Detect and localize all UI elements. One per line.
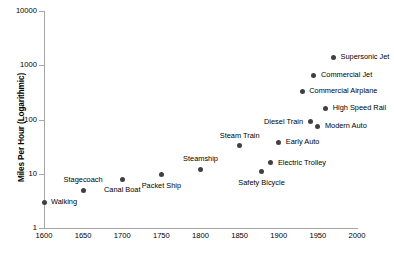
y-tick-label-1000: 1000 [20, 61, 37, 69]
data-point [315, 124, 320, 129]
x-tick-label-1900: 1900 [270, 232, 287, 240]
y-tick-mark-1 [39, 228, 44, 229]
y-tick-mark-100 [39, 120, 44, 121]
data-point [237, 143, 242, 148]
x-tick-label-1700: 1700 [114, 232, 131, 240]
data-point [323, 106, 328, 111]
y-tick-label-100: 100 [24, 116, 37, 124]
data-point-label: Commercial Jet [321, 72, 372, 79]
data-point-label: High Speed Rail [333, 105, 386, 112]
data-point-label: Supersonic Jet [341, 54, 390, 61]
data-point [276, 140, 281, 145]
data-point [159, 172, 164, 177]
data-point-label: Diesel Train [264, 118, 303, 125]
data-point [198, 167, 203, 172]
data-point-label: Canal Boat [104, 186, 141, 193]
data-point [331, 55, 336, 60]
data-point-label: Early Auto [286, 139, 320, 146]
y-tick-label-10: 10 [29, 170, 37, 178]
data-point [42, 200, 47, 205]
x-tick-label-1600: 1600 [36, 232, 53, 240]
data-point-label: Walking [51, 198, 77, 205]
y-axis-title: Miles Per Hour (Logarithmic) [14, 0, 28, 255]
y-tick-label-10000: 10000 [16, 7, 37, 15]
data-point [300, 89, 305, 94]
data-point-label: Electric Trolley [278, 159, 326, 166]
x-tick-label-1750: 1750 [153, 232, 170, 240]
speed-of-travel-chart: Miles Per Hour (Logarithmic) 11010010001… [0, 0, 394, 255]
x-axis-line [44, 228, 358, 229]
y-tick-mark-10000 [39, 11, 44, 12]
data-point [311, 73, 316, 78]
x-tick-label-1800: 1800 [192, 232, 209, 240]
data-point-label: Packet Ship [142, 182, 181, 189]
x-tick-label-1950: 1950 [309, 232, 326, 240]
data-point [308, 119, 313, 124]
data-point [120, 177, 125, 182]
data-point [268, 160, 273, 165]
data-point-label: Safety Bicycle [238, 179, 284, 186]
data-point-label: Modern Auto [325, 123, 367, 130]
x-tick-label-1850: 1850 [231, 232, 248, 240]
data-point-label: Steam Train [220, 131, 260, 138]
data-point-label: Stagecoach [64, 176, 103, 183]
data-point-label: Commercial Airplane [309, 88, 377, 95]
y-tick-mark-10 [39, 174, 44, 175]
data-point [81, 188, 86, 193]
x-tick-label-1650: 1650 [75, 232, 92, 240]
x-tick-label-2000: 2000 [349, 232, 366, 240]
data-point-label: Steamship [183, 155, 218, 162]
y-tick-mark-1000 [39, 65, 44, 66]
y-axis-line [44, 11, 45, 229]
data-point [259, 169, 264, 174]
